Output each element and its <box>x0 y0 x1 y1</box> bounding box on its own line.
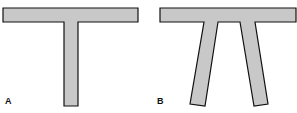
panel-label-b: B <box>157 96 164 106</box>
diagram-canvas <box>0 0 297 113</box>
shape-b-pi-section <box>160 8 296 106</box>
panel-label-a: A <box>5 96 12 106</box>
shape-a-t-section <box>3 8 138 106</box>
